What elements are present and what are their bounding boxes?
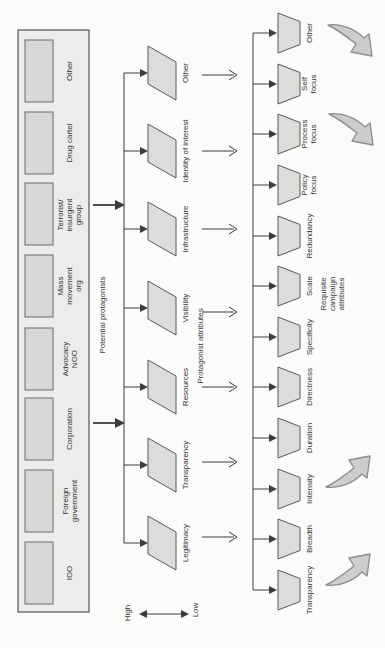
branch-arrowhead [140,383,148,391]
protagonist-item-label: Mass movement org [56,267,84,304]
campaign-attribute-label: Other [305,23,314,43]
scale-arrowhead-left [139,610,147,618]
protagonist-cell [25,183,53,245]
campaign-attribute-label: Redundancy [305,214,314,259]
campaign-attributes-group-label: Requisite campaign attributes [319,268,347,320]
branch-arrowhead [140,147,148,155]
protagonist-attribute-label: Visibility [181,294,190,323]
protagonist-attribute-label: Legitimacy [181,524,190,562]
protagonist-attribute-shapes [148,46,176,570]
branch-arrowhead [140,304,148,312]
protagonist-attribute-label: Infrastructure [181,205,190,252]
branch-arrowhead [269,282,277,290]
branch-arrowhead [269,232,277,240]
parallelogram [148,516,176,570]
trapezoid [278,64,300,104]
branch-arrowhead [269,586,277,594]
protagonist-attribute-label: Other [181,63,190,83]
trapezoid [278,519,300,559]
scale-arrowhead-right [181,610,189,618]
campaign-attribute-label: Self focus [300,74,318,93]
attributes-to-campaign-arrows [202,70,237,542]
potential-protagonists-group-label: Potential protagonists [98,277,107,354]
protagonist-attribute-label: Identity of interest [181,119,190,182]
protagonist-item-label: Drug cartel [65,123,74,162]
trapezoid [278,165,300,205]
protagonist-item-label: Corporation [65,408,74,450]
campaign-attribute-label: Directness [305,368,314,406]
branch-arrowhead [269,485,277,493]
branch-arrowhead [140,69,148,77]
protagonist-cell [25,112,53,174]
campaign-attribute-label: Specificity [305,319,314,355]
branch-arrowhead [269,181,277,189]
trapezoid [278,570,300,610]
branch-arrowhead [269,434,277,442]
trapezoid [278,367,300,407]
trapezoid [278,469,300,509]
campaign-attribute-label: Intensity [305,474,314,504]
trapezoid [278,114,300,154]
protagonist-attributes-group-label: Protagonist attributes [196,308,205,384]
parallelogram [148,124,176,178]
branch-arrowhead [269,383,277,391]
campaign-attribute-shapes [278,13,300,610]
protagonist-item-label: Terrorist/ insurgent group [56,199,84,232]
protagonist-cell [25,398,53,460]
branch-arrowhead [269,29,277,37]
trapezoid [278,266,300,306]
protagonist-item-label: Other [65,61,74,81]
protagonist-cell [25,542,53,604]
protagonist-cell [25,40,53,102]
protagonist-cell [25,328,53,390]
trapezoid [278,317,300,357]
branch-arrowhead [140,461,148,469]
parallelogram [148,360,176,414]
branch-arrowhead [269,80,277,88]
curved-arrow-down-right [328,25,372,56]
parallelogram [148,46,176,100]
protagonist-cell [25,470,53,532]
low-label: Low [191,603,200,618]
curved-arrow-up-right [326,456,370,487]
branch-arrowhead [140,225,148,233]
protagonist-attribute-label: Transparency [181,441,190,490]
parallelogram [148,202,176,256]
branch-arrowhead [269,333,277,341]
protagonist-cell [25,255,53,317]
parallelogram [148,438,176,492]
branch-arrowhead [269,535,277,543]
campaign-attribute-label: Duration [305,423,314,453]
curved-arrow-down-right [329,114,373,145]
branch-arrowhead [140,539,148,547]
campaign-attribute-label: Breadth [305,525,314,553]
parallelogram [148,281,176,335]
protagonist-item-label: Advocacy NGO [61,342,79,377]
campaign-attribute-label: Policy focus [300,174,318,195]
protagonist-item-label: IGO [65,566,74,581]
protagonist-item-label: Foreign government [61,480,79,522]
campaign-attribute-label: Transparency [305,566,314,615]
protagonist-attribute-label: Resources [181,368,190,406]
campaign-attribute-label: Scale [305,276,314,296]
campaign-attribute-label: Process focus [300,120,318,149]
branch-arrowhead [269,130,277,138]
protagonist-attributes-connector [124,69,148,547]
curved-arrow-up-right [326,554,370,585]
trapezoid [278,216,300,256]
trapezoid [278,418,300,458]
campaign-attributes-connector [253,29,277,594]
attribution-flow-diagram: Other Drug cartel Terrorist/ insurgent g… [0,0,385,648]
high-label: High [123,605,132,621]
trapezoid [278,13,300,53]
diagram-canvas [0,0,385,648]
potential-protagonists-box [18,30,89,612]
high-low-scale-arrow [139,610,189,618]
